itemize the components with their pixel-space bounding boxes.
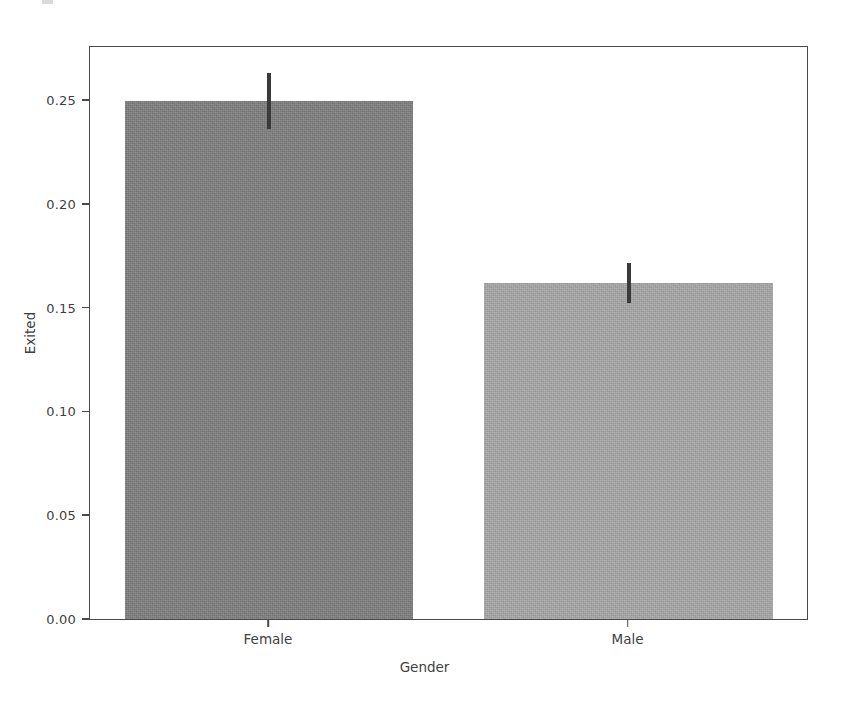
y-tick-mark <box>82 514 89 516</box>
y-tick-mark <box>82 203 89 205</box>
bar-chart-figure: 0.000.050.100.150.200.25 FemaleMale Gend… <box>0 0 849 701</box>
x-tick-label-female: Female <box>244 631 293 647</box>
x-tick-label-male: Male <box>612 631 644 647</box>
bar-female <box>125 101 413 619</box>
y-tick-label: 0.10 <box>46 404 76 419</box>
y-tick-mark <box>82 99 89 101</box>
y-axis-title: Exited <box>22 312 38 354</box>
y-tick-label: 0.15 <box>46 300 76 315</box>
crop-artifact <box>42 0 53 4</box>
plot-inner <box>90 47 807 619</box>
x-tick-mark <box>267 620 269 627</box>
y-tick-mark <box>82 411 89 413</box>
y-tick-label: 0.05 <box>46 508 76 523</box>
x-axis-title: Gender <box>0 659 849 675</box>
y-tick-label: 0.20 <box>46 196 76 211</box>
y-tick-label: 0.25 <box>46 93 76 108</box>
bar-male <box>484 283 773 619</box>
y-tick-mark <box>82 307 89 309</box>
y-tick-mark <box>82 618 89 620</box>
error-bar-female <box>267 73 271 130</box>
y-tick-label: 0.00 <box>46 612 76 627</box>
x-tick-mark <box>627 620 629 627</box>
error-bar-male <box>627 263 631 303</box>
plot-area <box>89 46 808 620</box>
